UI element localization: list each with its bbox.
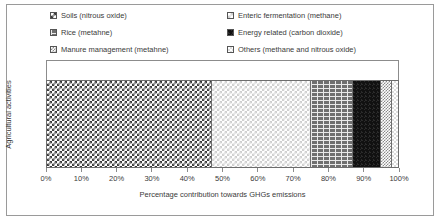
- x-axis-tick: [399, 168, 400, 172]
- x-axis-tick-label: 20%: [109, 174, 124, 183]
- legend-label-soils: Soils (nitrous oxide): [61, 11, 127, 20]
- bar-segment: [46, 80, 212, 168]
- legend-swatch-manure-management-icon: [50, 46, 57, 53]
- chart-legend: Soils (nitrous oxide) Rice (metahne) Man…: [12, 6, 428, 54]
- legend-swatch-others-icon: [227, 46, 234, 53]
- x-axis-tick: [116, 168, 117, 172]
- x-axis-tick: [222, 168, 223, 172]
- x-axis-tick: [187, 168, 188, 172]
- x-axis-tick: [293, 168, 294, 172]
- bar-segment: [311, 80, 353, 168]
- x-axis-tick-label: 30%: [144, 174, 159, 183]
- x-axis-ticks: [46, 168, 399, 173]
- x-axis-tick-label: 80%: [321, 174, 336, 183]
- legend-label-manure-management: Manure management (metahne): [61, 45, 169, 54]
- legend-label-energy-related: Energy related (carbon dioxide): [238, 28, 343, 37]
- legend-swatch-enteric-fermentation-icon: [227, 12, 234, 19]
- legend-item-manure-management: Manure management (metahne): [50, 42, 169, 57]
- x-axis-tick: [328, 168, 329, 172]
- x-axis-tick: [257, 168, 258, 172]
- x-axis-tick-label: 90%: [356, 174, 371, 183]
- stacked-bar: [46, 80, 399, 168]
- legend-label-enteric-fermentation: Enteric fermentation (methane): [238, 11, 341, 20]
- x-axis-tick-label: 70%: [286, 174, 301, 183]
- x-axis-tick: [151, 168, 152, 172]
- legend-item-energy-related: Energy related (carbon dioxide): [227, 25, 356, 40]
- bar-segment: [392, 80, 399, 168]
- bar-segment: [212, 80, 311, 168]
- chart-figure: Soils (nitrous oxide) Rice (metahne) Man…: [0, 0, 440, 222]
- legend-label-rice: Rice (metahne): [61, 28, 112, 37]
- x-axis-tick-label: 100%: [389, 174, 408, 183]
- x-axis-tick-label: 10%: [74, 174, 89, 183]
- x-axis-title: Percentage contribution towards GHGs emi…: [46, 190, 399, 199]
- legend-swatch-soils-icon: [50, 12, 57, 19]
- legend-column-right: Enteric fermentation (methane) Energy re…: [227, 8, 356, 59]
- x-axis-tick-label: 40%: [180, 174, 195, 183]
- x-axis-tick-label: 50%: [215, 174, 230, 183]
- y-axis-title: Agricultural activities: [0, 60, 16, 168]
- x-axis-tick-label: 0%: [41, 174, 52, 183]
- x-axis-tick: [46, 168, 47, 172]
- legend-column-left: Soils (nitrous oxide) Rice (metahne) Man…: [50, 8, 169, 59]
- legend-item-soils: Soils (nitrous oxide): [50, 8, 169, 23]
- y-axis-title-text: Agricultural activities: [4, 80, 13, 148]
- x-axis-tick: [363, 168, 364, 172]
- legend-label-others: Others (methane and nitrous oxide): [238, 45, 356, 54]
- x-axis-tick-label: 60%: [250, 174, 265, 183]
- bar-segment: [381, 80, 392, 168]
- x-axis-tick: [81, 168, 82, 172]
- legend-item-enteric-fermentation: Enteric fermentation (methane): [227, 8, 356, 23]
- x-axis-tick-labels: 0%10%20%30%40%50%60%70%80%90%100%: [46, 174, 399, 186]
- bar-segment: [353, 80, 381, 168]
- legend-item-rice: Rice (metahne): [50, 25, 169, 40]
- legend-swatch-energy-related-icon: [227, 29, 234, 36]
- legend-item-others: Others (methane and nitrous oxide): [227, 42, 356, 57]
- legend-swatch-rice-icon: [50, 29, 57, 36]
